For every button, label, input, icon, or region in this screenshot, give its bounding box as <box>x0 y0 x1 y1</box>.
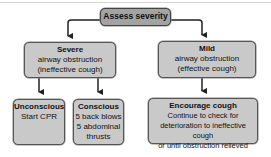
severe-title: Severe <box>25 45 115 55</box>
encourage-line-2: deterioration to ineffective cough <box>149 121 257 141</box>
encourage-title: Encourage cough <box>149 101 257 111</box>
encourage-line-3: or until obstruction relieved <box>149 141 257 151</box>
mild-node: Mild airway obstruction (effective cough… <box>158 41 256 78</box>
severe-line-1: airway obstruction <box>25 55 115 65</box>
severe-node: Severe airway obstruction (ineffective c… <box>24 42 116 78</box>
mild-title: Mild <box>159 44 255 54</box>
conscious-title: Conscious <box>74 102 123 112</box>
severe-line-2: (ineffective cough) <box>25 65 115 75</box>
conscious-line-3: thrusts <box>74 132 123 142</box>
mild-line-2: (effective cough) <box>159 64 255 74</box>
conscious-line-2: 5 abdominal <box>74 122 123 132</box>
assess-severity-node: Assess severity <box>100 8 171 26</box>
encourage-cough-node: Encourage cough Continue to check for de… <box>148 98 258 144</box>
unconscious-title: Unconscious <box>14 102 64 112</box>
conscious-line-1: 5 back blows <box>74 112 123 122</box>
assess-severity-label: Assess severity <box>103 11 167 21</box>
mild-line-1: airway obstruction <box>159 54 255 64</box>
encourage-line-1: Continue to check for <box>149 111 257 121</box>
unconscious-line-1: Start CPR <box>14 112 64 122</box>
unconscious-node: Unconscious Start CPR <box>13 99 65 145</box>
conscious-node: Conscious 5 back blows 5 abdominal thrus… <box>73 99 124 145</box>
